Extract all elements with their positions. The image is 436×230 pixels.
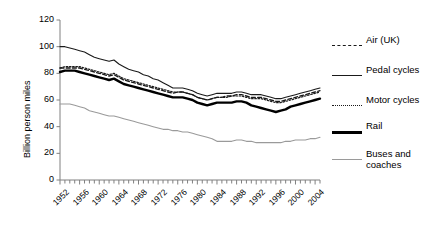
legend-label-line2: coaches (366, 159, 411, 170)
legend-swatch-icon (332, 105, 362, 106)
legend-swatch-icon (332, 159, 362, 160)
data-series-group (60, 47, 320, 143)
legend-label: Rail (366, 120, 382, 131)
legend-label: Motor cycles (366, 94, 419, 105)
series-line-air-uk- (60, 68, 320, 101)
legend-swatch-icon (332, 45, 362, 46)
legend-label: Pedal cycles (366, 64, 419, 75)
legend-swatch-icon (332, 75, 362, 76)
legend-label: Air (UK) (366, 34, 400, 45)
legend-swatch-icon (332, 131, 362, 134)
series-line-rail (60, 71, 320, 112)
legend-label: Buses andcoaches (366, 148, 411, 170)
chart-container: Billion person miles 020406080100120 195… (0, 0, 436, 230)
series-line-motor-cycles (60, 67, 320, 103)
